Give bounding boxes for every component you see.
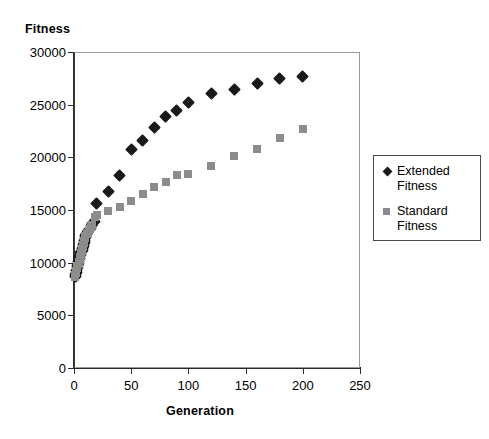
data-point-standard bbox=[230, 152, 238, 160]
data-point-standard bbox=[93, 211, 101, 219]
x-tick-label: 0 bbox=[49, 379, 99, 392]
data-point-standard bbox=[88, 221, 96, 229]
data-point-extended bbox=[182, 96, 195, 109]
data-point-standard bbox=[184, 170, 192, 178]
y-tick-label: 30000 bbox=[8, 46, 66, 59]
data-point-standard bbox=[207, 162, 215, 170]
data-point-extended bbox=[228, 84, 241, 97]
data-point-extended bbox=[113, 169, 126, 182]
data-point-extended bbox=[102, 185, 115, 198]
x-tick-mark bbox=[74, 369, 75, 374]
x-tick-label: 100 bbox=[163, 379, 213, 392]
data-point-extended bbox=[274, 72, 287, 85]
y-tick-label: 20000 bbox=[8, 151, 66, 164]
x-tick-mark bbox=[246, 369, 247, 374]
y-tick-label: 0 bbox=[8, 362, 66, 375]
diamond-icon bbox=[381, 164, 397, 180]
y-axis-title: Fitness bbox=[25, 22, 70, 36]
data-point-standard bbox=[253, 145, 261, 153]
x-tick-mark bbox=[188, 369, 189, 374]
y-tick-label: 25000 bbox=[8, 99, 66, 112]
fitness-scatter-chart: Fitness 050001000015000200002500030000 0… bbox=[0, 0, 489, 439]
legend-entry: Extended Fitness bbox=[381, 164, 450, 194]
chart-legend: Extended FitnessStandard Fitness bbox=[373, 155, 481, 241]
y-tick-label: 5000 bbox=[8, 309, 66, 322]
data-point-extended bbox=[125, 144, 138, 157]
x-axis-title: Generation bbox=[0, 404, 400, 418]
data-point-extended bbox=[91, 197, 104, 210]
x-tick-label: 200 bbox=[278, 379, 328, 392]
data-point-standard bbox=[150, 183, 158, 191]
x-tick-label: 250 bbox=[335, 379, 385, 392]
data-point-standard bbox=[299, 125, 307, 133]
data-point-standard bbox=[116, 203, 124, 211]
data-point-standard bbox=[104, 207, 112, 215]
legend-entry: Standard Fitness bbox=[381, 204, 448, 234]
data-point-extended bbox=[205, 87, 218, 100]
data-point-extended bbox=[159, 110, 172, 123]
legend-swatch bbox=[383, 208, 390, 215]
square-icon bbox=[381, 204, 397, 220]
data-point-extended bbox=[296, 70, 309, 83]
x-tick-mark bbox=[360, 369, 361, 374]
data-point-extended bbox=[136, 134, 149, 147]
x-tick-label: 150 bbox=[221, 379, 271, 392]
data-point-extended bbox=[251, 77, 264, 90]
legend-label: Standard Fitness bbox=[397, 204, 448, 234]
data-point-standard bbox=[162, 178, 170, 186]
legend-swatch bbox=[383, 167, 393, 177]
data-point-extended bbox=[148, 121, 161, 134]
x-tick-mark bbox=[303, 369, 304, 374]
legend-label: Extended Fitness bbox=[397, 164, 450, 194]
plot-data-layer bbox=[74, 52, 360, 368]
data-point-standard bbox=[173, 171, 181, 179]
x-tick-label: 50 bbox=[106, 379, 156, 392]
y-tick-label: 10000 bbox=[8, 257, 66, 270]
data-point-standard bbox=[276, 134, 284, 142]
data-point-standard bbox=[127, 197, 135, 205]
y-tick-label: 15000 bbox=[8, 204, 66, 217]
data-point-extended bbox=[171, 105, 184, 118]
data-point-standard bbox=[139, 190, 147, 198]
x-tick-mark bbox=[131, 369, 132, 374]
